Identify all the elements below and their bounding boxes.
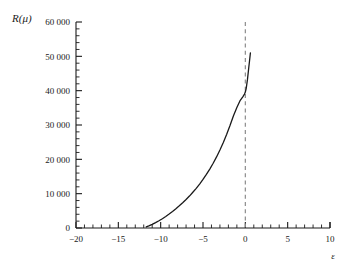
y-tick-label: 60 000 — [45, 17, 70, 27]
x-tick-label: −15 — [111, 234, 126, 244]
y-tick-label: 50 000 — [45, 52, 70, 62]
x-tick-label: 0 — [243, 234, 248, 244]
x-tick-label: −5 — [198, 234, 208, 244]
y-tick-label: 30 000 — [45, 120, 70, 130]
y-tick-label: 20 000 — [45, 155, 70, 165]
x-tick-label: 5 — [285, 234, 290, 244]
y-tick-label: 0 — [66, 223, 71, 233]
x-axis-label: ε — [331, 251, 335, 261]
x-tick-label: 10 — [326, 234, 336, 244]
x-tick-label: −20 — [69, 234, 84, 244]
y-tick-label: 10 000 — [45, 189, 70, 199]
figure-background — [0, 0, 347, 269]
x-tick-label: −10 — [154, 234, 169, 244]
y-tick-label: 40 000 — [45, 86, 70, 96]
y-axis-label: R(μ) — [11, 12, 32, 25]
chart-figure: R(μ) ε 010 00020 00030 00040 00050 00060… — [0, 0, 347, 269]
